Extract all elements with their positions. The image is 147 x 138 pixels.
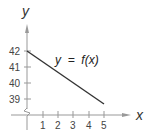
x-tick-label: 4 [86,120,92,131]
x-axis-label: x [135,107,144,123]
x-tick-label: 5 [101,120,107,131]
function-label: y = f(x) [54,53,99,67]
x-tick-label: 2 [55,120,61,131]
x-tick-label: 1 [40,120,46,131]
y-tick-label: 41 [9,62,21,73]
y-tick-label: 40 [9,78,21,89]
x-axis-arrow-icon [122,113,131,117]
y-tick-label: 39 [9,94,21,105]
chart-canvas: y x 42 41 40 39 1 2 3 4 5 y = f(x) [0,0,147,138]
y-tick-label: 42 [9,46,21,57]
x-tick-label: 3 [70,120,76,131]
y-axis-label: y [21,3,30,19]
